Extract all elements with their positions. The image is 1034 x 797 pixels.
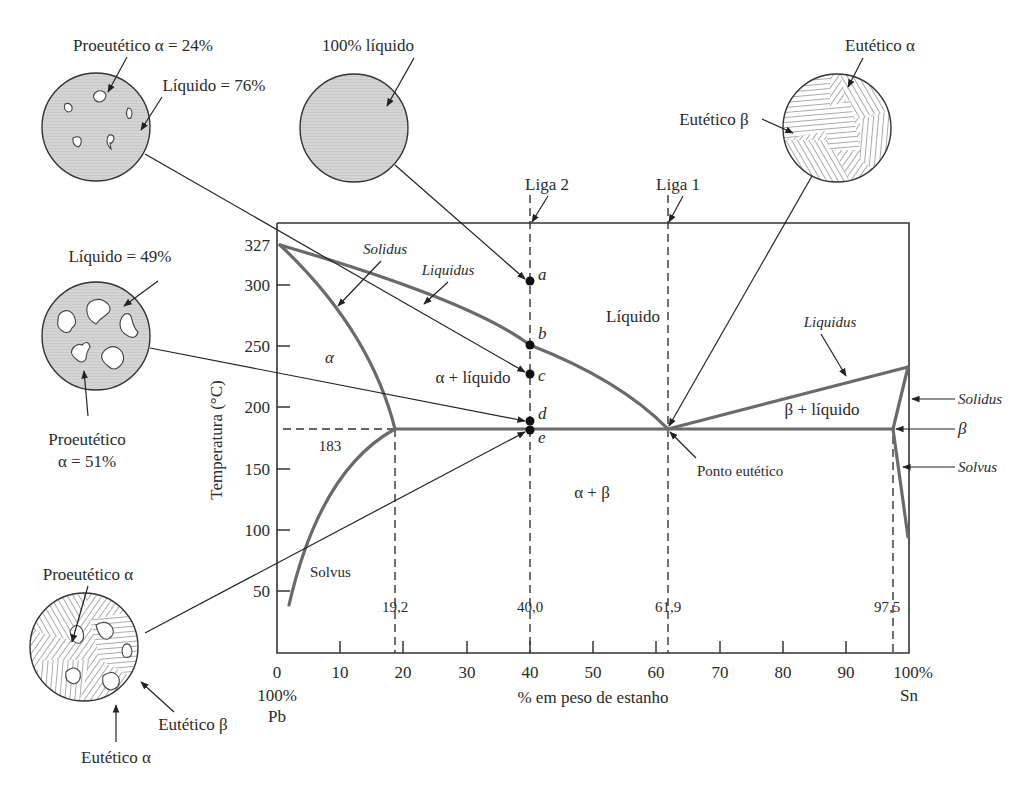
- y-axis: [277, 285, 290, 591]
- guide-lines: [283, 195, 893, 653]
- label-room-eutectic-alpha: Eutético α: [81, 748, 151, 767]
- label-alpha-51: α = 51%: [58, 452, 116, 471]
- label-room-proeutectic-alpha: Proeutético α: [43, 565, 134, 584]
- solidus-left-curve: [280, 245, 395, 429]
- point-d: [526, 417, 535, 426]
- x-axis-label: % em peso de estanho: [517, 688, 668, 707]
- label-room-eutectic-beta: Eutético β: [158, 715, 228, 734]
- x-tick-10: 10: [332, 663, 349, 682]
- composition-labels: 19,2 40,0 61,9 97,5 183: [319, 438, 900, 615]
- point-b: [526, 341, 535, 350]
- x-tick-80: 80: [775, 663, 792, 682]
- x-tick-70: 70: [712, 663, 729, 682]
- solidus-left-label: Solidus: [363, 241, 407, 257]
- region-alpha-liquid: α + líquido: [435, 368, 510, 387]
- alloy-1-label: Liga 1: [656, 175, 700, 194]
- x-end-pb: Pb: [268, 707, 286, 726]
- solvus-left-label: Solvus: [310, 564, 351, 580]
- x-tick-0: 0: [273, 663, 282, 682]
- point-labels: a b c d e: [538, 265, 547, 447]
- label-eutectic-beta: Eutético β: [679, 110, 749, 129]
- x-end-pb-percent: 100%: [257, 686, 297, 705]
- solvus-right-label: Solvus: [958, 459, 997, 475]
- comp-40-0: 40,0: [517, 599, 543, 615]
- label-proeutectic-24: Proeutético α = 24%: [73, 36, 213, 55]
- point-a: [526, 277, 535, 286]
- liquidus-right-label: Liquidus: [803, 314, 857, 330]
- microstructure-100-liquid: 100% líquido: [300, 36, 525, 279]
- region-alpha-beta: α + β: [574, 483, 610, 502]
- region-alpha: α: [325, 348, 335, 367]
- y-tick-250: 250: [245, 337, 271, 356]
- comp-61-9: 61,9: [655, 599, 681, 615]
- alloy-2-label: Liga 2: [525, 175, 569, 194]
- label-liquid-49: Líquido = 49%: [68, 247, 171, 266]
- plot-frame: [277, 223, 909, 653]
- x-tick-30: 30: [459, 663, 476, 682]
- y-axis-label: Temperatura (°C): [207, 380, 226, 499]
- y-tick-labels: 50 100 150 200 250 300 327: [245, 236, 271, 601]
- comp-19-2: 19,2: [382, 599, 408, 615]
- y-tick-100: 100: [245, 521, 271, 540]
- point-b-label: b: [538, 324, 547, 343]
- x-tick-100: 100%: [893, 663, 933, 682]
- beta-label: β: [957, 419, 967, 438]
- alloy-labels: Liga 2 Liga 1: [525, 175, 700, 222]
- region-beta-liquid: β + líquido: [785, 400, 860, 419]
- x-tick-90: 90: [838, 663, 855, 682]
- liquidus-right-line: [668, 367, 908, 429]
- y-tick-150: 150: [245, 460, 271, 479]
- label-liquid-76: Líquido = 76%: [162, 76, 265, 95]
- eutectic-temp-183: 183: [319, 438, 342, 454]
- x-end-sn: Sn: [900, 686, 918, 705]
- comp-97-5: 97,5: [874, 599, 900, 615]
- point-e: [526, 426, 535, 435]
- phase-boundaries: [280, 245, 908, 605]
- liquidus-left-label: Liquidus: [421, 262, 475, 278]
- point-e-label: e: [538, 428, 546, 447]
- y-tick-200: 200: [245, 398, 271, 417]
- y-tick-50: 50: [253, 582, 270, 601]
- label-proeutectic: Proeutético: [48, 430, 125, 449]
- y-tick-327: 327: [245, 236, 271, 255]
- point-c: [526, 370, 535, 379]
- x-tick-60: 60: [648, 663, 665, 682]
- point-d-label: d: [538, 404, 547, 423]
- label-100-liquid: 100% líquido: [322, 36, 414, 55]
- y-tick-300: 300: [245, 276, 271, 295]
- microstructure-liquid-49: Líquido = 49% Proeutético α = 51%: [42, 247, 525, 471]
- microstructure-eutectic: Eutético α Eutético β: [669, 36, 915, 426]
- region-liquid: Líquido: [606, 307, 660, 326]
- label-eutectic-alpha: Eutético α: [845, 36, 915, 55]
- point-c-label: c: [538, 366, 546, 385]
- solidus-right-line: [893, 367, 908, 429]
- solvus-right-line: [893, 429, 908, 537]
- eutectic-point-label: Ponto eutético: [697, 463, 783, 479]
- point-a-label: a: [538, 265, 547, 284]
- phase-diagram: 50 100 150 200 250 300 327 Temperatura (…: [0, 0, 1034, 797]
- x-axis: [340, 641, 846, 653]
- solidus-right-label: Solidus: [958, 391, 1002, 407]
- x-tick-20: 20: [395, 663, 412, 682]
- x-tick-40: 40: [522, 663, 539, 682]
- x-tick-50: 50: [585, 663, 602, 682]
